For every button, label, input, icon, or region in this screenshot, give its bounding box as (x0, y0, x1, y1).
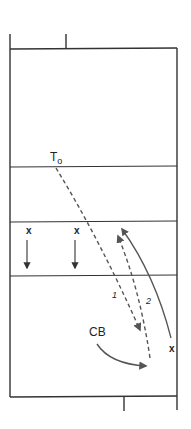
player-x-right: x (169, 343, 175, 354)
player-x-left: x (26, 225, 32, 236)
court-outline (10, 34, 177, 411)
cb-arrow (97, 344, 146, 366)
court-diagram: To x x 1 2 CB x (0, 0, 191, 429)
player-x-middle: x (74, 225, 80, 236)
to-label: To (50, 150, 62, 166)
solid-path-x (122, 229, 171, 338)
cb-label: CB (89, 325, 106, 339)
path-label-1: 1 (112, 290, 117, 300)
zone-lines (10, 166, 177, 276)
dashed-path-1 (56, 168, 140, 330)
path-label-2: 2 (145, 296, 151, 306)
